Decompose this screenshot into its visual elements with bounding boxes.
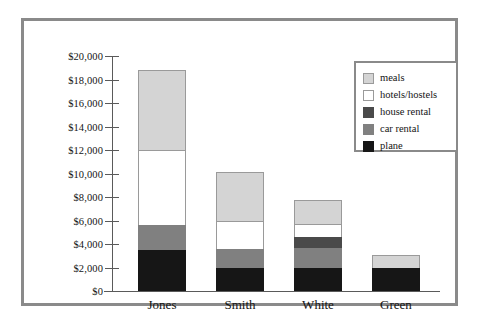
bar-segment-plane[interactable]: [138, 250, 186, 291]
bar-segment-plane[interactable]: [216, 268, 264, 291]
y-axis-tick-label: $8,000: [74, 192, 103, 203]
y-axis-tick: [105, 127, 119, 128]
legend-item-car-rental[interactable]: car rental: [363, 121, 456, 137]
bar-white[interactable]: [294, 200, 342, 291]
legend-label: hotels/hostels: [380, 90, 437, 101]
y-axis-tick: [105, 56, 119, 57]
legend-label: plane: [380, 141, 403, 152]
y-axis-tick-label: $18,000: [68, 74, 103, 85]
bar-smith[interactable]: [216, 172, 264, 291]
y-axis-tick-label: $14,000: [68, 121, 103, 132]
y-axis-tick: [105, 103, 119, 104]
y-axis-tick: [105, 197, 119, 198]
bar-segment-meals[interactable]: [372, 255, 420, 268]
y-axis-tick-label: $12,000: [68, 145, 103, 156]
bar-segment-meals[interactable]: [294, 200, 342, 224]
legend-items: mealshotels/hostelshouse rentalcar renta…: [363, 70, 456, 154]
y-axis-tick-label: $2,000: [74, 262, 103, 273]
legend-label: meals: [380, 73, 405, 84]
y-axis-tick-label: $16,000: [68, 98, 103, 109]
chart-legend: mealshotels/hostelshouse rentalcar renta…: [354, 61, 458, 152]
y-axis-tick: [105, 150, 119, 151]
y-axis-tick: [105, 268, 119, 269]
legend-item-hotels-hostels[interactable]: hotels/hostels: [363, 87, 456, 103]
bar-segment-hotels-hostels[interactable]: [294, 224, 342, 238]
bar-segment-car-rental[interactable]: [216, 249, 264, 268]
bar-segment-hotels-hostels[interactable]: [138, 150, 186, 225]
legend-swatch-icon: [363, 141, 374, 152]
legend-swatch-icon: [363, 73, 374, 84]
bar-segment-car-rental[interactable]: [138, 225, 186, 250]
bar-segment-meals[interactable]: [216, 172, 264, 220]
y-axis-tick-label: $20,000: [68, 51, 103, 62]
legend-label: car rental: [380, 124, 419, 135]
legend-item-house-rental[interactable]: house rental: [363, 104, 456, 120]
legend-swatch-icon: [363, 124, 374, 135]
y-axis-tick: [105, 221, 119, 222]
y-axis-tick: [105, 291, 119, 292]
legend-item-meals[interactable]: meals: [363, 70, 456, 86]
y-axis-tick: [105, 80, 119, 81]
legend-item-plane[interactable]: plane: [363, 138, 456, 154]
chart-page: $0$2,000$4,000$6,000$8,000$10,000$12,000…: [0, 0, 479, 324]
bar-segment-plane[interactable]: [294, 268, 342, 291]
x-axis-label-green: Green: [341, 297, 451, 313]
bar-segment-hotels-hostels[interactable]: [216, 221, 264, 249]
legend-swatch-icon: [363, 90, 374, 101]
bar-jones[interactable]: [138, 70, 186, 291]
x-axis-line: [104, 291, 440, 292]
y-axis-tick-label: $6,000: [74, 215, 103, 226]
y-axis-tick: [105, 174, 119, 175]
chart-panel: $0$2,000$4,000$6,000$8,000$10,000$12,000…: [21, 18, 458, 306]
bar-segment-plane[interactable]: [372, 268, 420, 291]
legend-label: house rental: [380, 107, 431, 118]
y-axis-tick-label: $10,000: [68, 168, 103, 179]
bar-green[interactable]: [372, 255, 420, 291]
y-axis-tick-label: $0: [92, 286, 103, 297]
bar-segment-car-rental[interactable]: [294, 248, 342, 268]
legend-swatch-icon: [363, 107, 374, 118]
y-axis-tick-label: $4,000: [74, 239, 103, 250]
bar-segment-house-rental[interactable]: [294, 237, 342, 248]
y-axis-tick: [105, 244, 119, 245]
bar-segment-meals[interactable]: [138, 70, 186, 150]
